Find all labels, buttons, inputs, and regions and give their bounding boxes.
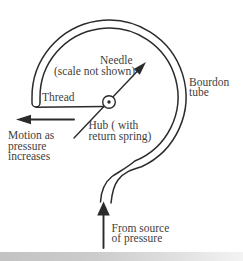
motion-label-line3: increases (8, 151, 54, 162)
thread-label: Thread (42, 92, 75, 103)
thread-line (36, 107, 104, 108)
pressure-source-label-line2: of pressure (112, 233, 170, 244)
needle-label: Needle (100, 55, 133, 66)
bourdon-tube-label: Bourdon tube (189, 77, 229, 98)
bourdon-tube-outline (32, 20, 186, 203)
motion-arrowhead-icon (16, 115, 31, 125)
needle-label-note: (scale not shown) (54, 66, 135, 77)
motion-label: Motion as pressure increases (8, 130, 54, 162)
hub-label: Hub ( with return spring) (89, 120, 152, 141)
pressure-arrowhead-icon (97, 202, 110, 216)
hub-label-line1: Hub ( with (89, 120, 152, 131)
hub-label-line2: return spring) (89, 131, 152, 142)
bourdon-gauge-diagram: Needle (scale not shown) Thread Hub ( wi… (0, 0, 243, 261)
bourdon-tube-label-line2: tube (189, 87, 229, 98)
hub-center-dot (107, 100, 110, 103)
motion-label-line1: Motion as (8, 130, 54, 141)
scan-edge-artifact (0, 252, 243, 261)
pressure-source-label: From source of pressure (112, 223, 170, 244)
